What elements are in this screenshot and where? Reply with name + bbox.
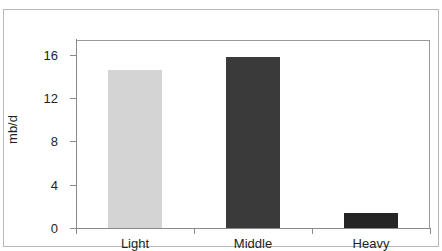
x-tick-mark (430, 228, 431, 234)
x-label-heavy: Heavy (344, 236, 398, 251)
x-label-middle: Middle (226, 236, 280, 251)
bar-heavy (344, 213, 398, 228)
x-label-light: Light (108, 236, 162, 251)
y-axis-title: mb/d (5, 115, 20, 144)
clipped-caption-strip (0, 0, 442, 7)
y-tick-mark (70, 141, 77, 142)
y-tick-label-16: 16 (28, 49, 58, 62)
y-tick-label-4: 4 (28, 179, 58, 192)
bar-light (108, 70, 162, 228)
y-tick-mark (70, 98, 77, 99)
y-tick-label-8: 8 (28, 135, 58, 148)
y-tick-mark (70, 185, 77, 186)
x-tick-mark (194, 228, 195, 234)
y-tick-label-12: 12 (28, 92, 58, 105)
bar-middle (226, 57, 280, 228)
x-axis-line (76, 228, 431, 229)
y-tick-label-0: 0 (28, 222, 58, 235)
x-tick-mark (76, 228, 77, 234)
y-axis-line (76, 39, 77, 229)
x-tick-mark (312, 228, 313, 234)
y-tick-mark (70, 55, 77, 56)
figure-frame: mb/d 0 4 8 12 16 Light Middle Heavy (3, 9, 439, 247)
